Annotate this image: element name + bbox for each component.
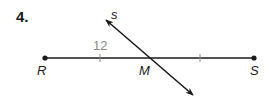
label-m: M	[139, 63, 150, 78]
point-r	[42, 55, 47, 60]
label-s: S	[250, 63, 259, 78]
label-line-s: s	[111, 7, 118, 22]
geometry-diagram: R S M s 12	[0, 0, 272, 103]
label-r: R	[37, 63, 46, 78]
label-measure-rm: 12	[93, 38, 107, 53]
point-s	[251, 55, 256, 60]
